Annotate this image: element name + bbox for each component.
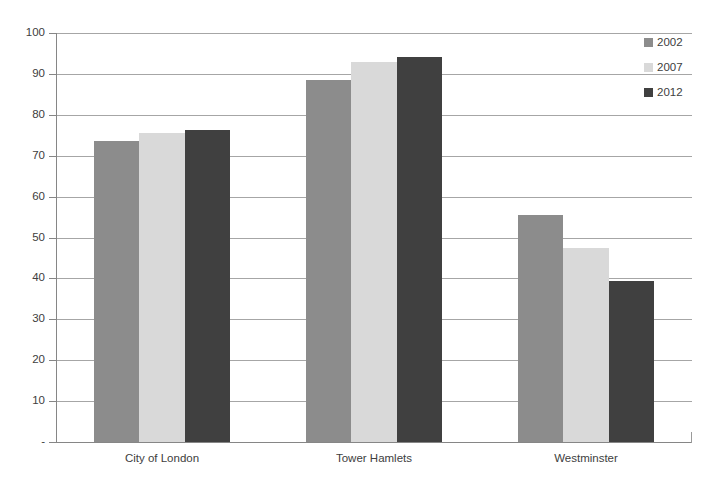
- legend-item-label: 2012: [657, 87, 683, 99]
- legend-swatch-icon: [644, 63, 653, 72]
- y-axis-tick-mark: [49, 156, 56, 157]
- bar-2002-westminster[interactable]: [518, 215, 563, 442]
- plot-right-border: [691, 432, 692, 443]
- y-axis-tick-label: 60: [5, 191, 45, 203]
- bar-2012-city-of-london[interactable]: [185, 130, 230, 442]
- chart-title: [0, 2, 714, 12]
- bar-2007-westminster[interactable]: [563, 248, 608, 442]
- y-axis-tick-label: 20: [5, 354, 45, 366]
- y-axis-tick-mark: [49, 33, 56, 34]
- y-axis-tick-label: 70: [5, 150, 45, 162]
- legend: 200220072012: [644, 30, 710, 105]
- legend-item-label: 2007: [657, 62, 683, 74]
- legend-item-2012[interactable]: 2012: [644, 80, 710, 105]
- x-axis-category-label: Tower Hamlets: [336, 452, 412, 464]
- y-axis-tick-label: 10: [5, 395, 45, 407]
- bar-2002-city-of-london[interactable]: [94, 141, 139, 442]
- y-axis-tick-mark: [49, 442, 56, 443]
- y-axis-tick-mark: [49, 115, 56, 116]
- y-axis-tick-label: -: [5, 436, 45, 448]
- y-axis-tick-mark: [49, 319, 56, 320]
- bar-chart: 100908070605040302010- City of LondonTow…: [0, 0, 714, 485]
- bar-2012-westminster[interactable]: [609, 281, 654, 442]
- y-axis-tick-label: 90: [5, 68, 45, 80]
- bar-2007-city-of-london[interactable]: [139, 133, 184, 442]
- x-axis-category-label: City of London: [125, 452, 199, 464]
- x-axis-category-label: Westminster: [554, 452, 618, 464]
- bar-2002-tower-hamlets[interactable]: [306, 80, 351, 442]
- y-axis-tick-label: 30: [5, 314, 45, 326]
- y-axis-tick-mark: [49, 74, 56, 75]
- bar-2007-tower-hamlets[interactable]: [351, 62, 396, 442]
- legend-swatch-icon: [644, 88, 653, 97]
- y-axis-tick-label: 40: [5, 273, 45, 285]
- y-axis-tick-label: 100: [5, 27, 45, 39]
- y-axis-tick-label: 80: [5, 109, 45, 121]
- y-axis-tick-mark: [49, 278, 56, 279]
- y-axis-tick-mark: [49, 401, 56, 402]
- y-axis-tick-mark: [49, 238, 56, 239]
- y-axis-tick-label: 50: [5, 232, 45, 244]
- legend-item-2007[interactable]: 2007: [644, 55, 710, 80]
- legend-item-label: 2002: [657, 37, 683, 49]
- legend-item-2002[interactable]: 2002: [644, 30, 710, 55]
- y-axis-line: [56, 33, 57, 443]
- y-axis-tick-mark: [49, 197, 56, 198]
- gridline: [56, 33, 692, 34]
- x-axis-line: [56, 442, 692, 443]
- legend-swatch-icon: [644, 38, 653, 47]
- bar-2012-tower-hamlets[interactable]: [397, 57, 442, 442]
- plot-area: [56, 33, 692, 442]
- y-axis-tick-mark: [49, 360, 56, 361]
